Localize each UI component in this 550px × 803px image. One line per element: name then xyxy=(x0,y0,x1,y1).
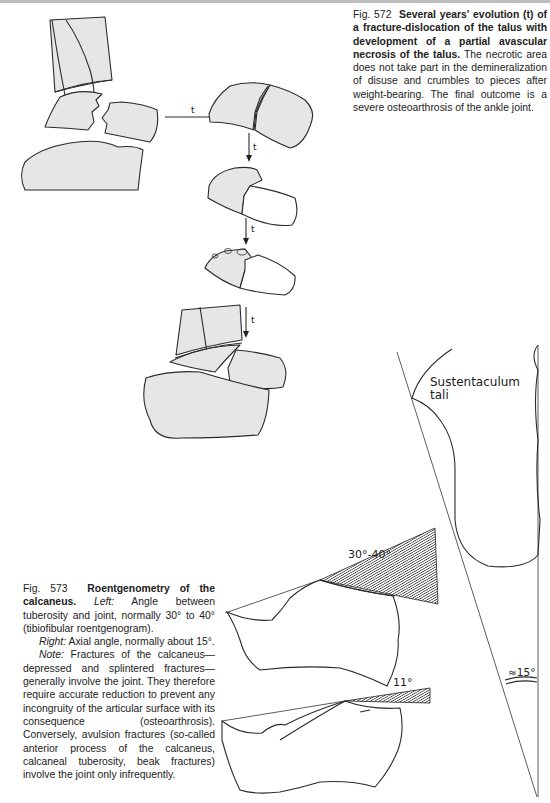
time-arrow-label: t xyxy=(191,105,195,115)
angle-label-normal: 30°-40° xyxy=(348,548,391,561)
hatched-angle-11 xyxy=(345,688,430,703)
sustentaculum-label-line1: Sustentaculum xyxy=(430,375,520,389)
fig573-left-calcaneus-flattened-angle: 11° xyxy=(222,676,430,793)
time-arrow-label: t xyxy=(251,315,255,325)
fig572-final-ankle-osteoarthrosis xyxy=(144,305,286,438)
fig572-stage2-talus: t xyxy=(209,83,313,162)
angle-label-flattened: 11° xyxy=(393,676,413,689)
hatched-angle-30-40 xyxy=(320,528,438,604)
time-arrow-label: t xyxy=(251,224,255,234)
fig573-left-calcaneus-normal-angle: 30°-40° xyxy=(225,528,438,686)
angle-label-axial: ≈15° xyxy=(508,666,535,678)
fig572-stage3-talus: t xyxy=(208,167,297,245)
sustentaculum-label-line2: tali xyxy=(430,388,449,402)
fig572-initial-ankle-drawing: t xyxy=(22,17,230,190)
figures-canvas: t t t t xyxy=(0,0,550,803)
time-arrow-label: t xyxy=(253,142,257,152)
